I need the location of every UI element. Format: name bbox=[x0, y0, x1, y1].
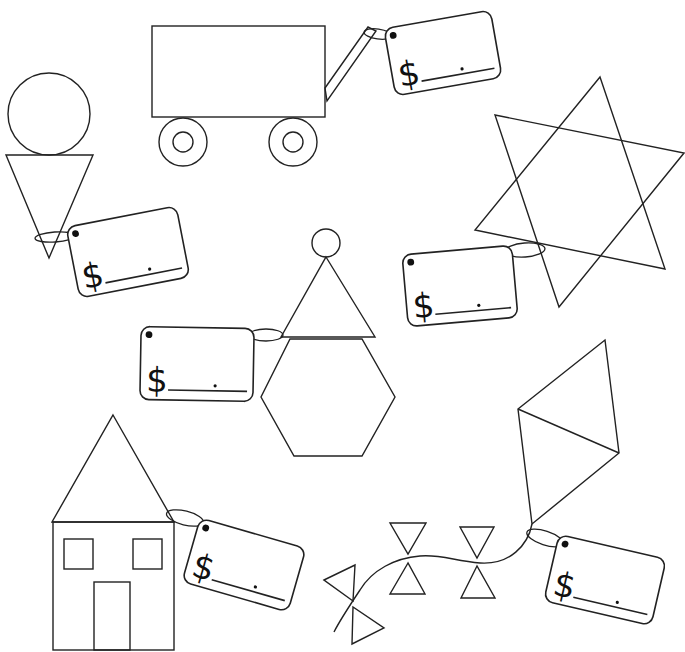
bow-triangle-icon bbox=[460, 527, 494, 558]
circle-shape bbox=[8, 73, 90, 155]
kite-tag[interactable]: $ bbox=[544, 534, 666, 625]
house-windows bbox=[64, 539, 162, 569]
small-circle-shape bbox=[312, 229, 340, 257]
house-roof-triangle bbox=[52, 415, 174, 522]
wagon-handle bbox=[325, 27, 376, 101]
dollar-sign-icon: $ bbox=[411, 284, 436, 326]
kite-string bbox=[334, 524, 532, 632]
kite-crossbar bbox=[518, 409, 619, 453]
star-tag[interactable]: $ bbox=[402, 245, 518, 326]
hexagon-shape bbox=[261, 339, 395, 456]
wheel-hub-circle bbox=[173, 132, 193, 152]
house-window bbox=[133, 539, 162, 569]
wagon-body-rectangle bbox=[152, 26, 325, 117]
wagon-wheels bbox=[159, 118, 317, 166]
bow-triangle-icon bbox=[390, 523, 426, 554]
bow-triangle-icon bbox=[352, 607, 384, 644]
star-triangle-b bbox=[495, 115, 684, 307]
dollar-sign-icon: $ bbox=[146, 360, 168, 400]
kite-tail-bows bbox=[324, 523, 495, 644]
wheel-hub-circle bbox=[283, 132, 303, 152]
bow-triangle-icon bbox=[324, 565, 355, 601]
house-body-square bbox=[53, 522, 174, 650]
wheel-outer-circle bbox=[269, 118, 317, 166]
house-tag[interactable]: $ bbox=[182, 518, 306, 612]
triangle-hat-shape bbox=[281, 257, 375, 337]
ice-cream-tag[interactable]: $ bbox=[66, 206, 190, 298]
kite-outline bbox=[518, 340, 619, 524]
hexagon-figure-shape bbox=[261, 229, 395, 456]
price-tags: $$$$$$ bbox=[35, 10, 667, 625]
bow-triangle-icon bbox=[461, 566, 495, 598]
star-triangle-a bbox=[475, 77, 665, 269]
wagon-shape bbox=[152, 26, 376, 166]
snowman-tag[interactable]: $ bbox=[140, 327, 254, 402]
bow-triangle-icon bbox=[390, 563, 425, 594]
house-shape bbox=[52, 415, 174, 650]
house-window bbox=[64, 539, 93, 569]
wheel-outer-circle bbox=[159, 118, 207, 166]
wagon-tag[interactable]: $ bbox=[384, 10, 502, 96]
price-tag-worksheet: $$$$$$ bbox=[0, 0, 685, 652]
house-door-rectangle bbox=[94, 582, 130, 650]
